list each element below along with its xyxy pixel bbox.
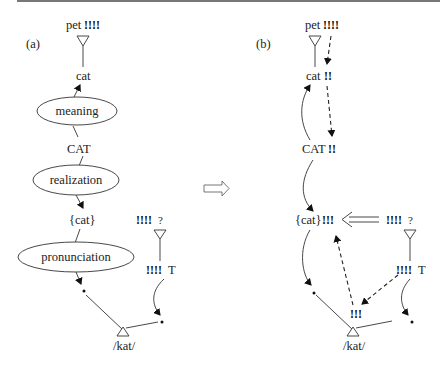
t-marks: !!!! xyxy=(146,263,162,277)
panel-a: (a) pet !!!! cat meaning CAT realization… xyxy=(18,18,176,353)
dot xyxy=(161,321,164,324)
query-label: ? xyxy=(158,214,163,226)
query-marks: !!!! xyxy=(136,213,152,227)
connector-line xyxy=(86,295,123,330)
dashed-arrow xyxy=(327,36,331,64)
meaning-label: meaning xyxy=(55,104,99,118)
pet-marks: !!!! xyxy=(84,18,100,32)
pet-label: pet xyxy=(305,18,321,32)
cat-marks: !! xyxy=(324,69,332,83)
panel-b: (b) pet !!!! cat !! CAT !! {cat} !!! !!!… xyxy=(256,18,426,353)
query-marks: !!!! xyxy=(386,213,402,227)
kat-label: /kat/ xyxy=(113,339,136,353)
inverted-triangle-icon xyxy=(404,230,416,239)
triangle-icon xyxy=(347,327,359,336)
pronunciation-label: pronunciation xyxy=(41,250,111,264)
inverted-triangle-icon xyxy=(309,36,321,46)
panel-b-label: (b) xyxy=(256,37,271,51)
dashed-arrow xyxy=(327,86,332,136)
curved-arrow-to-cat xyxy=(302,85,310,140)
curved-arrow-to-dot xyxy=(303,230,311,285)
CAT-label: CAT xyxy=(67,142,91,156)
inverted-triangle-icon xyxy=(77,36,89,46)
diagram: (a) pet !!!! cat meaning CAT realization… xyxy=(0,0,440,367)
realization-label: realization xyxy=(50,173,103,187)
dot xyxy=(83,290,86,293)
curved-arrow xyxy=(402,279,411,315)
dot xyxy=(313,292,316,295)
arrow-to-cat xyxy=(74,85,80,97)
dashed-arrow xyxy=(336,236,353,305)
dashed-arrow xyxy=(362,275,398,304)
connector-line xyxy=(73,126,78,137)
curved-arrow xyxy=(154,279,164,315)
set-cat-label: {cat} xyxy=(295,213,322,227)
dot xyxy=(411,321,414,324)
t-marks: !!!! xyxy=(396,263,412,277)
connector-line xyxy=(126,322,158,328)
inverted-triangle-icon xyxy=(154,230,166,239)
kat-label: /kat/ xyxy=(343,339,366,353)
panel-a-label: (a) xyxy=(26,37,40,51)
pet-label: pet xyxy=(66,18,82,32)
cat-label: cat xyxy=(76,69,91,83)
CAT-marks: !! xyxy=(328,142,336,156)
connector-line xyxy=(75,229,80,243)
arrow-to-set-cat xyxy=(76,195,83,208)
t-label: T xyxy=(418,263,426,277)
arrow-to-dot xyxy=(76,272,81,284)
connector-line xyxy=(316,295,353,330)
curved-arrow-to-set-cat xyxy=(303,160,313,211)
pet-marks: !!!! xyxy=(323,18,339,32)
triangle-icon xyxy=(117,327,129,336)
hollow-right-arrow-icon xyxy=(204,181,229,196)
CAT-label: CAT xyxy=(302,142,326,156)
t-label: T xyxy=(168,263,176,277)
set-cat-label: {cat} xyxy=(69,213,96,227)
connector-line xyxy=(79,156,83,166)
query-label: ? xyxy=(408,214,413,226)
kat-marks: !!! xyxy=(350,307,362,321)
double-arrow-left xyxy=(342,212,379,227)
connector-line xyxy=(356,321,392,328)
cat-label: cat xyxy=(306,69,321,83)
set-cat-marks: !!! xyxy=(322,213,334,227)
